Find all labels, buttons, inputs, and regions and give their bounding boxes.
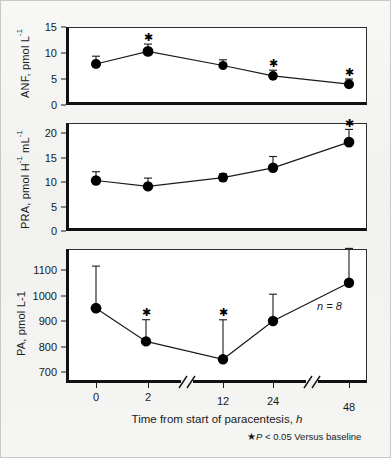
xtick-mark-2	[148, 383, 149, 388]
figure-container: ANF, pmol L-1 15 10 5 0	[0, 0, 391, 458]
x-axis-breaks	[1, 1, 391, 458]
significance-footnote: ★PP < 0.05 Versus baseline < 0.05 Versus…	[247, 431, 361, 442]
xtick-mark-12	[223, 383, 224, 388]
x-axis-title: Time from start of paracentesis, h	[67, 413, 367, 425]
xtick-mark-24	[273, 383, 274, 388]
footnote-text: < 0.05 Versus baseline	[262, 431, 361, 442]
xtick-label-12: 12	[217, 395, 229, 407]
xtick-label-24: 24	[267, 395, 279, 407]
xtick-label-0: 0	[93, 391, 99, 403]
xtick-mark-0	[96, 383, 97, 388]
xtick-mark-48	[349, 383, 350, 388]
xtick-label-2: 2	[145, 391, 151, 403]
xtick-label-48: 48	[343, 401, 355, 413]
footnote-star-icon: ★	[247, 431, 256, 442]
